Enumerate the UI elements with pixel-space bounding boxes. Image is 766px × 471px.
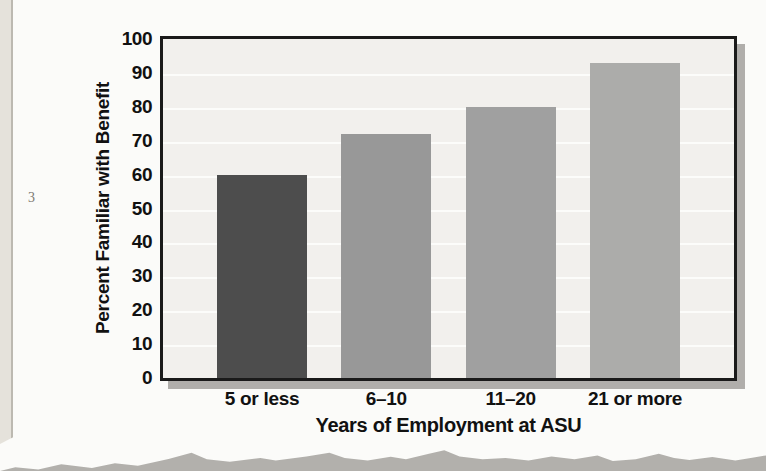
bar-chart-plot-area <box>160 36 737 381</box>
bar-6-10 <box>341 134 431 378</box>
y-tick-50: 50 <box>132 197 152 219</box>
bar-21-or-more <box>590 63 680 378</box>
x-axis-category-labels: 5 or less6–1011–2021 or more <box>163 388 734 410</box>
bar-5-or-less <box>217 175 307 378</box>
scanned-textbook-page: 3 Percent Familiar with Benefit 01020304… <box>0 0 766 471</box>
y-tick-70: 70 <box>132 129 152 151</box>
x-category-6-10: 6–10 <box>341 388 431 410</box>
y-tick-90: 90 <box>132 61 152 83</box>
y-tick-0: 0 <box>142 367 152 389</box>
x-axis-title: Years of Employment at ASU <box>163 414 734 437</box>
page-edge-strip <box>0 0 13 444</box>
torn-paper-edge <box>0 445 766 471</box>
y-tick-40: 40 <box>132 231 152 253</box>
x-category-5-or-less: 5 or less <box>217 388 307 410</box>
bar-11-20 <box>466 107 556 378</box>
y-tick-10: 10 <box>132 333 152 355</box>
y-tick-80: 80 <box>132 95 152 117</box>
y-tick-100: 100 <box>122 28 152 50</box>
y-tick-60: 60 <box>132 163 152 185</box>
bars-container <box>163 39 734 378</box>
marginal-page-number: 3 <box>28 190 35 206</box>
y-axis-tick-labels: 0102030405060708090100 <box>70 39 152 378</box>
x-category-11-20: 11–20 <box>466 388 556 410</box>
y-tick-20: 20 <box>132 299 152 321</box>
y-tick-30: 30 <box>132 265 152 287</box>
x-category-21-or-more: 21 or more <box>590 388 680 410</box>
